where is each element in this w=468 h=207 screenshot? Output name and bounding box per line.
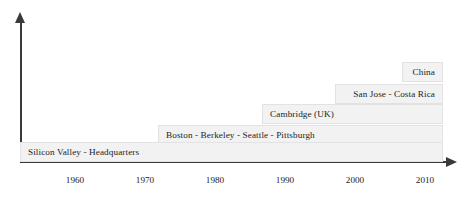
timeline-band-silicon-valley-headquarters: Silicon Valley - Headquarters bbox=[20, 142, 443, 162]
x-axis-tick-label: 1990 bbox=[276, 175, 294, 185]
x-axis-arrow-icon bbox=[446, 157, 457, 167]
x-axis-tick-label: 1970 bbox=[136, 175, 154, 185]
timeline-band-label: China bbox=[413, 67, 442, 77]
x-axis-tick-label: 1960 bbox=[66, 175, 84, 185]
timeline-band-china: China bbox=[402, 62, 443, 82]
timeline-band-label: Cambridge (UK) bbox=[263, 109, 334, 119]
timeline-figure: China San Jose - Costa Rica Cambridge (U… bbox=[0, 0, 468, 207]
timeline-band-san-jose-costa-rica: San Jose - Costa Rica bbox=[335, 84, 443, 104]
timeline-band-label: San Jose - Costa Rica bbox=[353, 89, 442, 99]
y-axis-line bbox=[20, 22, 22, 162]
x-axis-tick-label: 1980 bbox=[206, 175, 224, 185]
timeline-band-cambridge-uk: Cambridge (UK) bbox=[262, 104, 443, 124]
y-axis-arrow-icon bbox=[15, 12, 25, 23]
x-axis-tick-label: 2010 bbox=[416, 175, 434, 185]
x-axis-tick-label: 2000 bbox=[346, 175, 364, 185]
timeline-band-label: Silicon Valley - Headquarters bbox=[21, 147, 139, 157]
x-axis-tick-labels: 1960 1970 1980 1990 2000 2010 bbox=[0, 175, 468, 191]
timeline-band-label: Boston - Berkeley - Seattle - Pittsburgh bbox=[159, 130, 315, 140]
